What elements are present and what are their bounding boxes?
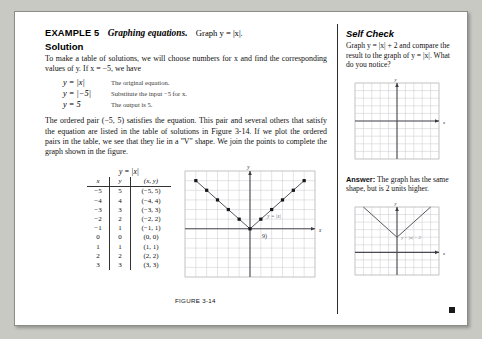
answer-graph-svg: xyy = |x| + 2 <box>346 199 450 283</box>
cell-pair: (−5, 5) <box>131 187 172 197</box>
table-row: −3 3 (−3, 3) <box>87 206 171 215</box>
self-check-blank-graph-svg: xy <box>346 75 450 169</box>
cell-pair: (3, 3) <box>131 261 172 270</box>
table-header-pair: (x, y) <box>131 177 172 187</box>
end-of-example-marker <box>449 307 455 313</box>
svg-text:y = |x| + 2: y = |x| + 2 <box>400 235 421 240</box>
self-check-answer: Answer: The graph has the same shape, bu… <box>346 175 452 194</box>
cell-y: 2 <box>110 252 131 261</box>
equation-step: y = |−5| Substitute the input −5 for x. <box>63 89 327 100</box>
svg-text:y: y <box>246 164 250 170</box>
main-graph: xyy = |x|9) FIGURE 3-14 <box>175 163 327 303</box>
cell-pair: (−4, 4) <box>131 197 172 206</box>
self-check-heading: Self Check <box>346 28 452 39</box>
cell-y: 3 <box>110 261 131 270</box>
cell-x: −2 <box>87 215 110 224</box>
example-title: Graphing equations. <box>108 28 188 38</box>
equation-step-note: The original equation. <box>111 79 169 86</box>
cell-x: −1 <box>87 224 110 233</box>
main-graph-svg: xyy = |x|9) <box>175 163 327 291</box>
cell-pair: (2, 2) <box>131 252 172 261</box>
figure-row: y = |x| x y (x, y) −5 5 <box>45 163 327 303</box>
svg-text:y = |x|: y = |x| <box>266 213 281 219</box>
cell-x: −3 <box>87 206 110 215</box>
svg-text:y: y <box>393 200 397 205</box>
table-header-row: x y (x, y) <box>87 177 171 187</box>
table-caption: y = |x| <box>87 167 171 176</box>
equation-step: y = 5 The output is 5. <box>63 100 327 111</box>
example-label: EXAMPLE 5 <box>45 28 100 38</box>
equation-steps: y = |x| The original equation. y = |−5| … <box>63 78 327 111</box>
cell-x: 3 <box>87 261 110 270</box>
cell-x: −5 <box>87 187 110 197</box>
figure-caption: FIGURE 3-14 <box>175 297 216 304</box>
cell-y: 1 <box>110 224 131 233</box>
cell-y: 0 <box>110 233 131 242</box>
cell-y: 4 <box>110 197 131 206</box>
cell-y: 5 <box>110 187 131 197</box>
cell-x: 2 <box>87 252 110 261</box>
main-column: EXAMPLE 5 Graphing equations. Graph y = … <box>45 28 327 303</box>
cell-pair: (−1, 1) <box>131 224 172 233</box>
self-check-column: Self Check Graph y = |x| + 2 and compare… <box>346 28 452 293</box>
cell-pair: (−2, 2) <box>131 215 172 224</box>
table-row: 1 1 (1, 1) <box>87 243 171 252</box>
equation-step-note: The output is 5. <box>111 101 152 108</box>
table-row: −1 1 (−1, 1) <box>87 224 171 233</box>
solution-intro: To make a table of solutions, we will ch… <box>45 54 327 74</box>
cell-pair: (0, 0) <box>131 233 172 242</box>
cell-pair: (−3, 3) <box>131 206 172 215</box>
svg-text:x: x <box>442 251 445 256</box>
solution-paragraph: The ordered pair (−5, 5) satisfies the e… <box>45 116 327 157</box>
table-of-solutions: y = |x| x y (x, y) −5 5 <box>87 167 171 270</box>
svg-text:9): 9) <box>262 233 267 241</box>
cell-y: 2 <box>110 215 131 224</box>
table-header-x: x <box>87 177 110 187</box>
table-row: −2 2 (−2, 2) <box>87 215 171 224</box>
equation-step-expression: y = 5 <box>63 100 111 109</box>
table-row: 3 3 (3, 3) <box>87 261 171 270</box>
table-row: −4 4 (−4, 4) <box>87 197 171 206</box>
self-check-prompt: Graph y = |x| + 2 and compare the result… <box>346 41 452 70</box>
solution-heading: Solution <box>45 41 327 52</box>
answer-graph: xyy = |x| + 2 <box>346 199 450 293</box>
table-row: −5 5 (−5, 5) <box>87 187 171 197</box>
equation-step-expression: y = |x| <box>63 78 111 87</box>
cell-x: 1 <box>87 243 110 252</box>
cell-y: 1 <box>110 243 131 252</box>
table-row: 0 0 (0, 0) <box>87 233 171 242</box>
svg-text:x: x <box>318 227 322 233</box>
cell-x: −4 <box>87 197 110 206</box>
table-header-y: y <box>110 177 131 187</box>
example-heading: EXAMPLE 5 Graphing equations. Graph y = … <box>45 28 327 38</box>
table-row: 2 2 (2, 2) <box>87 252 171 261</box>
equation-step: y = |x| The original equation. <box>63 78 327 89</box>
example-instruction: Graph y = |x|. <box>196 28 243 38</box>
column-divider <box>337 24 338 314</box>
equation-step-note: Substitute the input −5 for x. <box>111 90 187 97</box>
svg-text:y: y <box>393 76 397 81</box>
cell-y: 3 <box>110 206 131 215</box>
textbook-page: EXAMPLE 5 Graphing equations. Graph y = … <box>14 11 468 326</box>
cell-x: 0 <box>87 233 110 242</box>
answer-label: Answer: <box>346 175 375 184</box>
cell-pair: (1, 1) <box>131 243 172 252</box>
svg-text:x: x <box>442 120 446 125</box>
equation-step-expression: y = |−5| <box>63 89 111 98</box>
self-check-blank-graph: xy <box>346 75 450 169</box>
